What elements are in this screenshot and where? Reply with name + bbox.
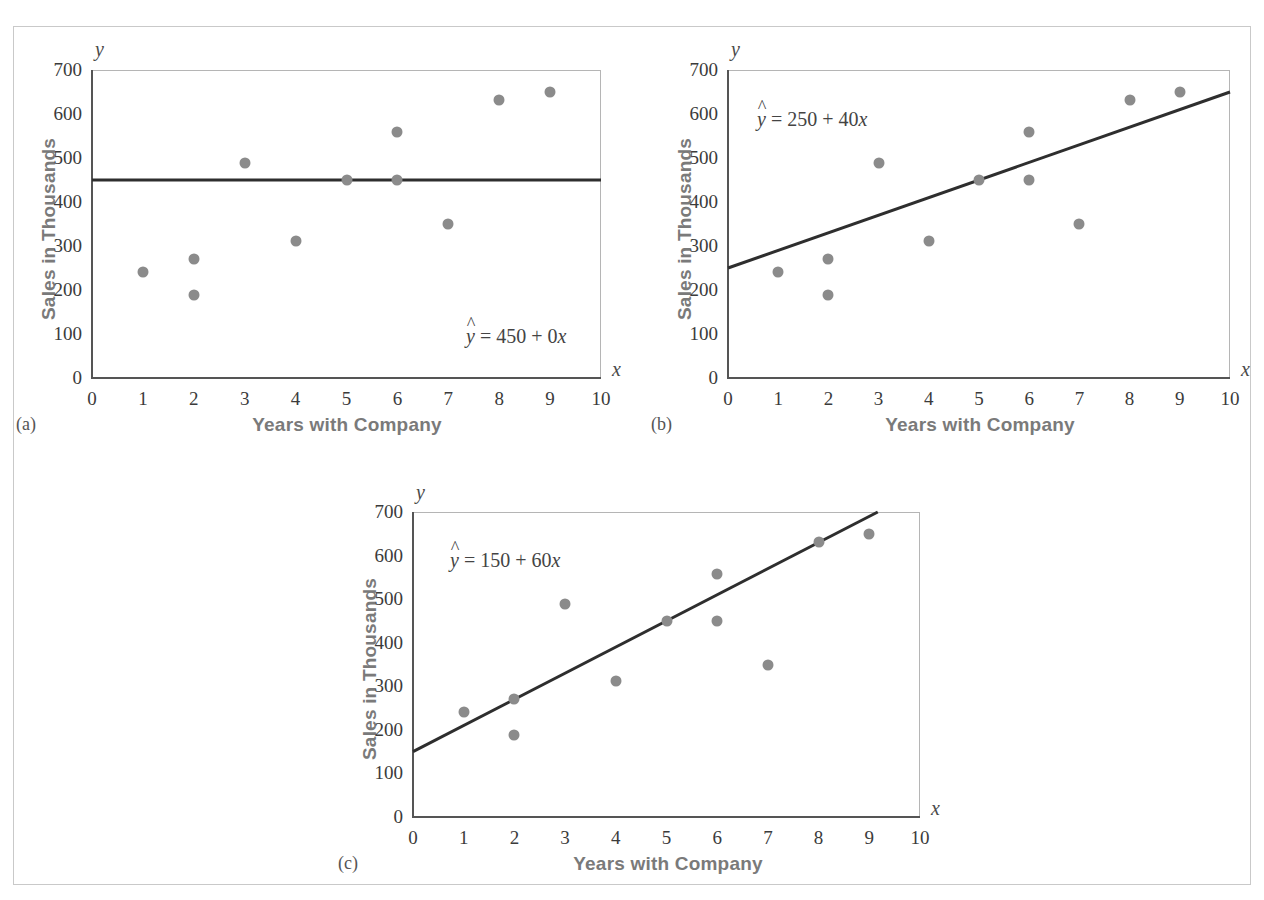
- x-axis-title-b: Years with Company: [845, 414, 1115, 436]
- x-tick-label: 6: [712, 827, 722, 849]
- y-axis-letter-b: y: [731, 38, 740, 61]
- y-tick-label: 100: [666, 323, 718, 345]
- equation-annotation-c: y = 150 + 60x: [450, 549, 560, 572]
- y-axis-line-b: [727, 70, 729, 378]
- equation-annotation-a: y = 450 + 0x: [466, 325, 566, 348]
- data-point: [762, 659, 773, 670]
- y-axis-line-c: [412, 512, 414, 817]
- data-point: [137, 267, 148, 278]
- x-axis-letter-c: x: [931, 797, 940, 820]
- x-tick-label: 8: [1125, 388, 1135, 410]
- y-tick-label: 400: [30, 191, 82, 213]
- y-axis-line-a: [91, 70, 93, 378]
- y-tick-label: 600: [30, 103, 82, 125]
- equation-rhs-a: = 450 + 0: [475, 325, 558, 347]
- y-tick-label: 700: [351, 501, 403, 523]
- data-point: [239, 157, 250, 168]
- y-tick-label: 300: [351, 675, 403, 697]
- data-point: [974, 175, 985, 186]
- x-tick-label: 4: [291, 388, 301, 410]
- y-axis-letter-c: y: [416, 481, 425, 504]
- y-tick-label: 600: [666, 103, 718, 125]
- data-point: [545, 87, 556, 98]
- data-point: [923, 235, 934, 246]
- x-tick-label: 8: [814, 827, 824, 849]
- data-point: [864, 528, 875, 539]
- x-axis-line-c: [412, 816, 920, 818]
- equation-var-a: x: [557, 325, 566, 347]
- x-axis-letter-a: x: [612, 358, 621, 381]
- data-point: [560, 598, 571, 609]
- data-point: [458, 707, 469, 718]
- data-point: [392, 175, 403, 186]
- x-tick-label: 9: [865, 827, 875, 849]
- x-tick-label: 0: [408, 827, 418, 849]
- data-point: [290, 235, 301, 246]
- x-tick-label: 5: [974, 388, 984, 410]
- x-axis-title-c: Years with Company: [533, 853, 803, 875]
- y-tick-label: 500: [351, 588, 403, 610]
- y-tick-label: 500: [30, 147, 82, 169]
- x-tick-label: 5: [342, 388, 352, 410]
- equation-annotation-b: y = 250 + 40x: [757, 108, 867, 131]
- x-tick-label: 6: [393, 388, 403, 410]
- y-tick-label: 100: [30, 323, 82, 345]
- x-tick-label: 7: [444, 388, 454, 410]
- y-tick-label: 0: [666, 367, 718, 389]
- x-tick-label: 8: [494, 388, 504, 410]
- y-tick-label: 700: [666, 59, 718, 81]
- x-tick-label: 7: [763, 827, 773, 849]
- data-point: [1024, 127, 1035, 138]
- data-point: [873, 157, 884, 168]
- data-point: [1074, 219, 1085, 230]
- x-tick-label: 3: [560, 827, 570, 849]
- equation-var-c: x: [551, 549, 560, 571]
- data-point: [1024, 175, 1035, 186]
- data-point: [712, 568, 723, 579]
- data-point: [188, 290, 199, 301]
- x-axis-line-a: [91, 377, 601, 379]
- x-tick-label: 6: [1024, 388, 1034, 410]
- data-point: [509, 730, 520, 741]
- x-tick-label: 1: [459, 827, 469, 849]
- x-tick-label: 10: [911, 827, 930, 849]
- x-tick-label: 3: [240, 388, 250, 410]
- data-point: [392, 127, 403, 138]
- data-point: [494, 94, 505, 105]
- x-tick-label: 1: [138, 388, 148, 410]
- y-tick-label: 200: [30, 279, 82, 301]
- data-point: [341, 175, 352, 186]
- y-tick-label: 400: [351, 632, 403, 654]
- x-tick-label: 2: [510, 827, 520, 849]
- data-point: [443, 219, 454, 230]
- x-tick-label: 10: [1221, 388, 1240, 410]
- data-point: [188, 254, 199, 265]
- data-point: [813, 536, 824, 547]
- x-tick-label: 2: [824, 388, 834, 410]
- y-tick-label: 200: [351, 719, 403, 741]
- x-tick-label: 7: [1075, 388, 1085, 410]
- x-tick-label: 3: [874, 388, 884, 410]
- x-axis-line-b: [727, 377, 1230, 379]
- x-tick-label: 0: [87, 388, 97, 410]
- panel-caption-b: (b): [651, 414, 672, 435]
- equation-lhs-c: y: [450, 549, 459, 572]
- data-point: [610, 676, 621, 687]
- x-tick-label: 0: [723, 388, 733, 410]
- data-point: [1174, 87, 1185, 98]
- x-tick-label: 2: [189, 388, 199, 410]
- y-tick-label: 0: [30, 367, 82, 389]
- equation-var-b: x: [858, 108, 867, 130]
- x-tick-label: 1: [773, 388, 783, 410]
- y-axis-letter-a: y: [95, 38, 104, 61]
- equation-lhs-b: y: [757, 108, 766, 131]
- panel-caption-c: (c): [338, 853, 358, 874]
- x-axis-title-a: Years with Company: [212, 414, 482, 436]
- y-tick-label: 300: [30, 235, 82, 257]
- data-point: [773, 267, 784, 278]
- data-point: [823, 290, 834, 301]
- y-tick-label: 300: [666, 235, 718, 257]
- x-tick-label: 4: [611, 827, 621, 849]
- y-tick-label: 200: [666, 279, 718, 301]
- x-tick-label: 10: [592, 388, 611, 410]
